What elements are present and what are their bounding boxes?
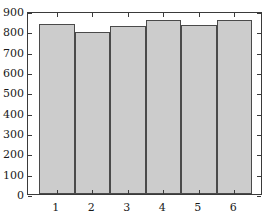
y-tick-800	[257, 33, 261, 34]
y-tick-label-500: 500	[0, 88, 24, 99]
bar-3	[110, 26, 146, 194]
y-tick-800	[28, 33, 32, 34]
x-tick-2	[92, 190, 93, 194]
y-tick-200	[257, 155, 261, 156]
x-tick-label-3: 3	[117, 202, 137, 213]
x-tick-label-1: 1	[46, 202, 66, 213]
bar-2	[75, 32, 111, 194]
x-tick-6	[234, 190, 235, 194]
y-tick-0	[257, 196, 261, 197]
bar-5	[181, 25, 217, 194]
y-tick-400	[28, 115, 32, 116]
x-tick-1	[57, 190, 58, 194]
x-tick-3	[128, 13, 129, 17]
y-tick-300	[257, 135, 261, 136]
bars-layer	[28, 13, 261, 194]
y-tick-600	[28, 74, 32, 75]
x-tick-5	[199, 190, 200, 194]
y-tick-100	[28, 176, 32, 177]
x-tick-4	[163, 190, 164, 194]
x-tick-label-6: 6	[223, 202, 243, 213]
y-tick-500	[257, 94, 261, 95]
x-tick-4	[163, 13, 164, 17]
x-tick-label-4: 4	[152, 202, 172, 213]
y-tick-900	[28, 13, 32, 14]
y-tick-500	[28, 94, 32, 95]
y-tick-label-800: 800	[0, 27, 24, 38]
y-tick-label-600: 600	[0, 68, 24, 79]
y-tick-label-300: 300	[0, 129, 24, 140]
y-tick-600	[257, 74, 261, 75]
y-tick-label-700: 700	[0, 48, 24, 59]
y-tick-label-100: 100	[0, 170, 24, 181]
y-tick-300	[28, 135, 32, 136]
bar-1	[39, 24, 75, 194]
y-tick-700	[28, 54, 32, 55]
y-tick-700	[257, 54, 261, 55]
y-tick-400	[257, 115, 261, 116]
y-tick-900	[257, 13, 261, 14]
bar-4	[146, 20, 182, 194]
x-tick-3	[128, 190, 129, 194]
y-tick-label-200: 200	[0, 149, 24, 160]
y-tick-label-400: 400	[0, 109, 24, 120]
y-tick-200	[28, 155, 32, 156]
y-tick-100	[257, 176, 261, 177]
x-tick-label-5: 5	[188, 202, 208, 213]
bar-chart: 0100200300400500600700800900 123456	[0, 0, 270, 223]
y-tick-label-900: 900	[0, 7, 24, 18]
x-tick-1	[57, 13, 58, 17]
x-tick-5	[199, 13, 200, 17]
x-tick-label-2: 2	[81, 202, 101, 213]
x-tick-6	[234, 13, 235, 17]
x-tick-2	[92, 13, 93, 17]
y-tick-0	[28, 196, 32, 197]
y-tick-label-0: 0	[0, 190, 24, 201]
plot-area	[27, 12, 262, 195]
bar-6	[217, 20, 253, 194]
